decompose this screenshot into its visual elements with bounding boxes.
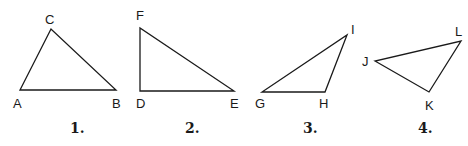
triangle-3: GHI3. xyxy=(255,22,355,136)
vertex-label-g: G xyxy=(255,96,265,111)
vertex-label-d: D xyxy=(136,96,145,111)
vertex-label-c: C xyxy=(45,12,54,27)
triangle-outline xyxy=(375,41,461,92)
triangle-outline xyxy=(140,28,234,91)
triangle-outline xyxy=(20,29,116,90)
triangle-outline xyxy=(262,35,347,92)
triangle-number-label: 1. xyxy=(70,120,85,136)
triangles-figure: ABC1.DEF2.GHI3.JKL4. xyxy=(0,0,468,146)
vertex-label-j: J xyxy=(362,54,369,69)
vertex-label-b: B xyxy=(112,96,121,111)
vertex-label-f: F xyxy=(136,8,144,23)
triangle-number-label: 4. xyxy=(418,120,433,136)
triangle-1: ABC1. xyxy=(13,12,121,136)
triangle-number-label: 2. xyxy=(185,120,200,136)
triangle-2: DEF2. xyxy=(136,8,239,136)
triangle-4: JKL4. xyxy=(362,24,462,136)
vertex-label-e: E xyxy=(230,96,239,111)
triangles-diagram: ABC1.DEF2.GHI3.JKL4. xyxy=(0,0,468,146)
vertex-label-k: K xyxy=(425,98,434,113)
vertex-label-a: A xyxy=(13,96,22,111)
vertex-label-h: H xyxy=(319,96,328,111)
vertex-label-l: L xyxy=(455,24,462,39)
triangle-number-label: 3. xyxy=(303,120,318,136)
vertex-label-i: I xyxy=(351,22,355,37)
